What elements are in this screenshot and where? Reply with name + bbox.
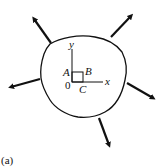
point-b-label: B [85,66,92,77]
figure-caption: (a) [1,155,13,166]
arrow-upper-right [111,16,131,37]
x-axis-label: x [105,76,110,87]
point-a-label: A [63,67,70,78]
arrow-right [127,83,153,98]
arrow-upper-left [34,19,51,43]
y-axis-label: y [69,39,74,50]
diagram-figure: y x A B C 0 (a) [0,0,160,167]
arrow-left [11,79,40,87]
point-c-label: C [79,84,86,95]
element-square [72,72,83,82]
arrow-bottom [99,118,109,145]
body-outline [41,36,127,117]
origin-label: 0 [65,80,71,91]
